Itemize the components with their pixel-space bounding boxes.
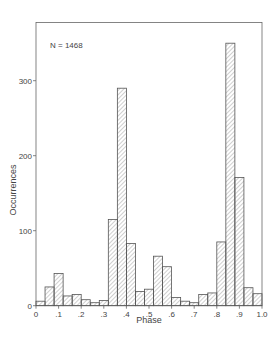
histogram-bar <box>81 300 90 306</box>
histogram-bar <box>135 291 144 305</box>
histogram-chart: 0.1.2.3.4.5.6.7.8.91.0 0100200300 N = 14… <box>0 0 277 340</box>
y-tick-label: 100 <box>19 227 33 236</box>
histogram-bar <box>208 293 217 306</box>
histogram-bar <box>190 303 199 306</box>
histogram-bar <box>163 267 172 306</box>
histogram-bars <box>36 43 262 306</box>
x-tick-label: 0 <box>34 310 39 319</box>
x-tick-label: .9 <box>236 310 243 319</box>
x-tick-label: .1 <box>55 310 62 319</box>
histogram-bar <box>235 177 244 305</box>
histogram-bar <box>90 303 99 306</box>
y-tick-label: 0 <box>28 302 33 311</box>
histogram-bar <box>54 273 63 305</box>
histogram-bar <box>226 43 235 306</box>
histogram-bar <box>154 256 163 306</box>
histogram-bar <box>36 301 45 306</box>
x-tick-label: 1.0 <box>256 310 268 319</box>
y-tick-label: 300 <box>19 77 33 86</box>
sample-size-annotation: N = 1468 <box>50 41 83 50</box>
histogram-bar <box>199 294 208 305</box>
histogram-bar <box>117 88 126 306</box>
histogram-bar <box>172 297 181 305</box>
histogram-bar <box>244 288 253 306</box>
histogram-bar <box>99 300 108 305</box>
histogram-bar <box>108 219 117 305</box>
histogram-bar <box>63 296 72 306</box>
histogram-bar <box>144 289 153 306</box>
histogram-bar <box>253 294 262 306</box>
y-axis: 0100200300 <box>19 77 36 311</box>
y-axis-label: Occurrences <box>8 164 18 216</box>
x-axis-label: Phase <box>136 315 162 325</box>
histogram-bar <box>181 301 190 306</box>
x-tick-label: .2 <box>78 310 85 319</box>
x-tick-label: .7 <box>191 310 198 319</box>
x-tick-label: .8 <box>213 310 220 319</box>
x-tick-label: .4 <box>123 310 130 319</box>
histogram-bar <box>126 243 135 305</box>
x-tick-label: .3 <box>100 310 107 319</box>
histogram-bar <box>72 294 81 305</box>
histogram-bar <box>217 242 226 306</box>
y-tick-label: 200 <box>19 152 33 161</box>
x-tick-label: .6 <box>168 310 175 319</box>
histogram-bar <box>45 287 54 306</box>
